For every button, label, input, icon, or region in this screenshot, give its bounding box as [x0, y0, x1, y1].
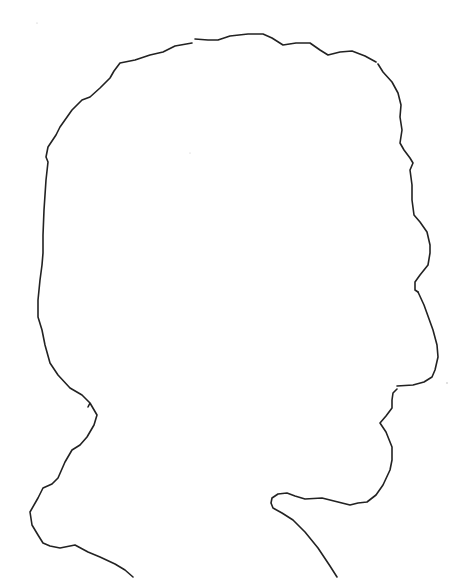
silhouette-outline-svg: [0, 0, 475, 580]
back-head-outline: [378, 64, 430, 292]
head-top-right-outline: [195, 34, 376, 62]
head-top-left-outline: [30, 43, 192, 577]
profile-silhouette-drawing: Hand-drawn line art outline of a human h…: [0, 0, 475, 580]
face-profile-outline: [271, 292, 438, 577]
